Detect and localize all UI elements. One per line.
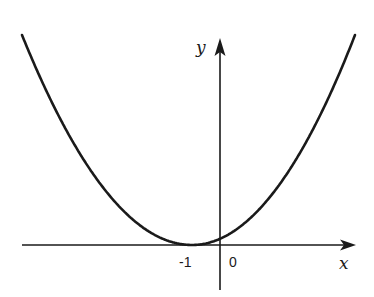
parabola-chart: y x -1 0 (0, 0, 374, 297)
tick-label-zero: 0 (229, 254, 237, 270)
parabola-curve (22, 35, 355, 245)
tick-label-minus-one: -1 (179, 254, 192, 270)
x-axis-label: x (339, 253, 349, 273)
y-axis-label: y (195, 37, 206, 57)
y-axis (215, 38, 226, 290)
